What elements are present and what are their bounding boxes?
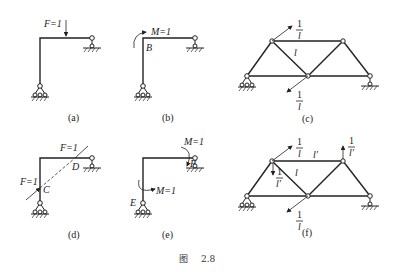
moment-arrow-icon [181, 147, 189, 166]
frac-numer: 1 [349, 135, 354, 146]
point-c-label: C [43, 184, 50, 195]
caption-c: (c) [302, 113, 313, 125]
moment-label: M=1 [183, 136, 204, 147]
frac-numer: 1 [297, 89, 302, 100]
moment-label: M=1 [150, 26, 171, 37]
frac-numer: 1 [297, 209, 302, 220]
frac-denom: l′ [276, 178, 282, 189]
figure-caption-number: 2.8 [201, 254, 216, 264]
point-b-label: B [146, 42, 152, 53]
member-label: l [294, 47, 297, 58]
point-e-label: E [129, 197, 136, 208]
panel-d: F=1 F=1 C D (d) [19, 142, 101, 241]
force-arrow-icon [272, 26, 292, 41]
moment-arrow-icon [134, 32, 146, 48]
caption-d: (d) [68, 229, 80, 241]
caption-f: (f) [302, 227, 312, 239]
point-f-label: F [189, 158, 197, 169]
frac-numer: 1 [297, 136, 302, 147]
force-label: F=1 [19, 176, 38, 187]
frac-denom: l [298, 101, 301, 112]
panel-e: M=1 F M=1 E (e) [129, 136, 204, 241]
member-label: l [295, 167, 298, 178]
force-arrow-icon [26, 188, 40, 200]
frac-denom: l′ [349, 147, 355, 158]
panel-b: M=1 B (b) [134, 26, 204, 124]
force-label: F=1 [43, 18, 62, 29]
caption-b: (b) [162, 112, 174, 124]
panel-f: 1 l l′ 1 l′ 1 l′ l 1 l (f) [238, 135, 379, 239]
force-arrow-icon [272, 146, 292, 161]
member-label: l′ [313, 149, 319, 160]
frac-denom: l [298, 30, 301, 41]
caption-a: (a) [68, 112, 79, 124]
moment-label: M=1 [155, 185, 176, 196]
point-d-label: D [71, 161, 80, 172]
panel-c: 1 l l 1 l (c) [238, 18, 379, 125]
moment-arrow-icon [139, 180, 155, 190]
caption-e: (e) [162, 229, 173, 241]
figure-caption-prefix: 图 [179, 254, 188, 264]
figure-2-8: F=1 (a) M=1 B (b) 1 l l 1 l (c) [0, 0, 402, 272]
frac-numer: 1 [297, 18, 302, 29]
frac-numer: 1 [277, 166, 282, 177]
frac-denom: l [298, 148, 301, 159]
panel-a: F=1 (a) [31, 18, 101, 124]
force-label: F=1 [59, 142, 78, 153]
frac-denom: l [298, 221, 301, 232]
